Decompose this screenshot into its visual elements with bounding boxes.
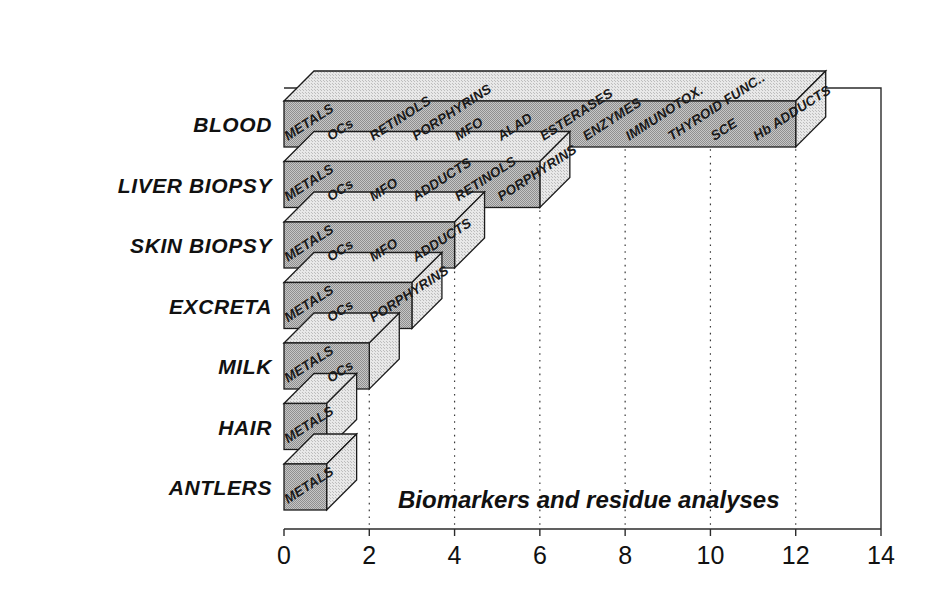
category-label-milk: MILK — [218, 355, 273, 378]
category-label-excreta: EXCRETA — [169, 295, 272, 318]
chart-annotation: Biomarkers and residue analyses — [398, 486, 780, 513]
category-label-antlers: ANTLERS — [168, 476, 272, 499]
category-label-hair: HAIR — [218, 416, 272, 439]
x-tick-label: 14 — [867, 541, 895, 569]
x-tick-label: 6 — [533, 541, 547, 569]
category-label-blood: BLOOD — [193, 113, 272, 136]
x-tick-label: 2 — [362, 541, 376, 569]
x-tick-label: 12 — [782, 541, 810, 569]
category-label-liver-biopsy: LIVER BIOPSY — [118, 174, 274, 197]
x-tick-label: 4 — [448, 541, 462, 569]
x-tick-label: 0 — [277, 541, 291, 569]
category-label-skin-biopsy: SKIN BIOPSY — [130, 234, 273, 257]
x-tick-label: 10 — [697, 541, 725, 569]
chart-canvas: METALSOCsRETINOLSPORPHYRINSMFOALADESTERA… — [0, 0, 927, 608]
bar-chart-figure: METALSOCsRETINOLSPORPHYRINSMFOALADESTERA… — [0, 0, 927, 608]
x-tick-label: 8 — [618, 541, 632, 569]
